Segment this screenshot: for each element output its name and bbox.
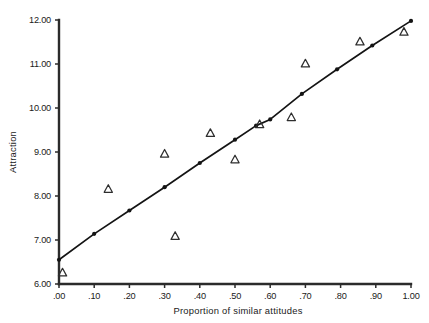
line-data-point: [300, 92, 304, 96]
line-data-point: [370, 43, 374, 47]
y-tick-label: 6.00: [34, 279, 51, 289]
line-data-point: [127, 208, 131, 212]
x-tick-label: .90: [370, 291, 382, 301]
x-tick-label: .10: [88, 291, 100, 301]
line-data-point: [198, 161, 202, 165]
x-tick-label: .70: [299, 291, 311, 301]
line-data-point: [233, 138, 237, 142]
scatter-plot-figure: 6.007.008.009.0010.0011.0012.00 .00.10.2…: [0, 0, 429, 323]
observed-triangle-marker: [301, 59, 309, 67]
x-tick-label: .80: [335, 291, 347, 301]
x-tick-label: .00: [53, 291, 65, 301]
observed-triangle-marker: [171, 232, 179, 240]
x-axis-title: Proportion of similar attitudes: [173, 305, 302, 316]
x-tick-label: .40: [194, 291, 206, 301]
observed-triangle-marker: [231, 155, 239, 163]
x-tick-label: .20: [123, 291, 135, 301]
y-tick-label: 11.00: [30, 59, 51, 69]
y-tick-label: 8.00: [34, 191, 51, 201]
observed-data-markers: [58, 28, 408, 276]
y-tick-label: 7.00: [34, 235, 51, 245]
axes-group: [59, 20, 411, 284]
x-tick-label: 1.00: [402, 291, 419, 301]
observed-triangle-marker: [400, 28, 408, 36]
line-data-point: [57, 258, 61, 262]
line-data-point: [92, 232, 96, 236]
line-data-point: [268, 117, 272, 121]
x-tick-label: .50: [229, 291, 241, 301]
observed-triangle-marker: [161, 149, 169, 157]
plot-canvas: 6.007.008.009.0010.0011.0012.00 .00.10.2…: [0, 0, 429, 323]
y-tick-label: 12.00: [29, 15, 51, 25]
x-axis-tick-labels: .00.10.20.30.40.50.60.70.80.901.00: [53, 291, 420, 301]
observed-triangle-marker: [104, 185, 112, 193]
line-data-point: [409, 19, 413, 23]
y-tick-label: 9.00: [34, 147, 51, 157]
y-axis-tick-labels: 6.007.008.009.0010.0011.0012.00: [29, 15, 51, 289]
x-tick-label: .60: [264, 291, 276, 301]
observed-triangle-marker: [356, 37, 364, 45]
observed-triangle-marker: [206, 129, 214, 137]
observed-triangle-marker: [287, 113, 295, 121]
y-axis-title: Attraction: [7, 131, 18, 173]
x-tick-label: .30: [159, 291, 171, 301]
regression-line-markers: [57, 19, 413, 262]
line-data-point: [335, 67, 339, 71]
y-tick-label: 10.00: [29, 103, 51, 113]
line-data-point: [163, 185, 167, 189]
